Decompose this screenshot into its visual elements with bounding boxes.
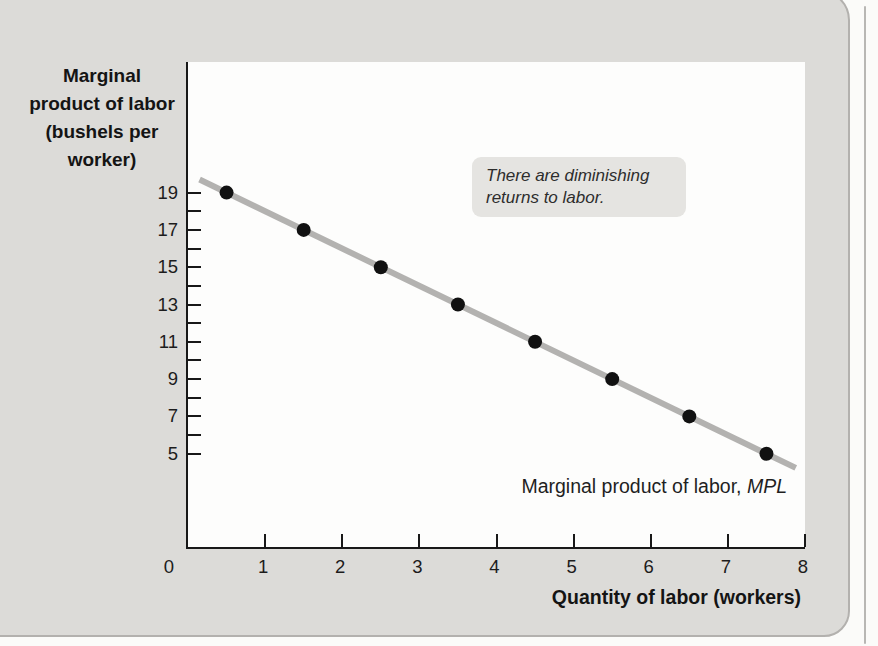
x-tick: [496, 534, 498, 547]
figure: Marginal product of labor (bushels per w…: [0, 0, 878, 646]
y-tick: [188, 210, 201, 212]
x-tick-label: 2: [323, 556, 357, 578]
y-tick: [188, 304, 201, 306]
page-edge-line: [864, 6, 866, 644]
x-tick: [650, 534, 652, 547]
y-tick: [188, 285, 201, 287]
y-tick-label: 17: [134, 219, 178, 241]
y-tick: [188, 359, 201, 361]
data-point: [528, 335, 542, 349]
x-tick: [727, 534, 729, 547]
data-point: [682, 409, 696, 423]
x-tick: [804, 534, 806, 547]
data-point: [297, 223, 311, 237]
y-tick: [188, 415, 201, 417]
y-tick: [188, 248, 201, 250]
x-axis-title: Quantity of labor (workers): [430, 586, 801, 609]
y-tick: [188, 378, 201, 380]
y-tick-label: 13: [134, 294, 178, 316]
data-point: [759, 447, 773, 461]
y-tick: [188, 322, 201, 324]
y-tick: [188, 341, 201, 343]
y-tick: [188, 192, 201, 194]
x-tick: [264, 534, 266, 547]
y-tick-label: 19: [134, 182, 178, 204]
mpl-line: [200, 180, 796, 468]
mpl-line-label: Marginal product of labor, MPL: [227, 475, 787, 498]
x-tick: [418, 534, 420, 547]
x-tick-label: 4: [478, 556, 512, 578]
mpl-abbrev: MPL: [747, 475, 787, 497]
y-tick: [188, 397, 201, 399]
x-tick-label: 8: [786, 556, 820, 578]
x-tick-label: 5: [555, 556, 589, 578]
y-tick: [188, 266, 201, 268]
x-tick-label: 6: [632, 556, 666, 578]
y-tick-label: 5: [134, 443, 178, 465]
y-tick: [188, 229, 201, 231]
annotation-text: There are diminishing returns to labor.: [486, 166, 649, 207]
y-tick-label: 15: [134, 256, 178, 278]
plot-area: There are diminishing returns to labor. …: [186, 62, 805, 549]
x-tick-label: 7: [709, 556, 743, 578]
x-tick: [341, 534, 343, 547]
y-tick-label: 11: [134, 331, 178, 353]
y-tick-label: 9: [134, 368, 178, 390]
data-point: [374, 260, 388, 274]
data-point: [451, 298, 465, 312]
data-point: [220, 186, 234, 200]
annotation-callout: There are diminishing returns to labor.: [472, 157, 686, 217]
x-tick-label: 0: [152, 556, 186, 578]
mpl-line-label-text: Marginal product of labor,: [521, 475, 746, 497]
y-tick: [188, 453, 201, 455]
x-tick-label: 1: [246, 556, 280, 578]
data-point: [605, 372, 619, 386]
y-axis-title: Marginal product of labor (bushels per w…: [24, 62, 180, 174]
x-tick: [573, 534, 575, 547]
x-tick-label: 3: [400, 556, 434, 578]
y-tick-label: 7: [134, 405, 178, 427]
y-tick: [188, 434, 201, 436]
